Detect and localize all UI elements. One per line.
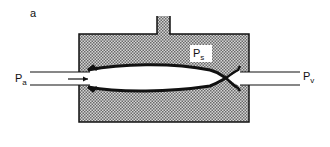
- inlet-pressure-label: Pa: [15, 72, 27, 87]
- panel-label: a: [30, 7, 37, 19]
- outlet-pressure-label: Pv: [303, 70, 314, 85]
- starling-resistor-diagram: a Pa Ps Pv: [0, 0, 330, 147]
